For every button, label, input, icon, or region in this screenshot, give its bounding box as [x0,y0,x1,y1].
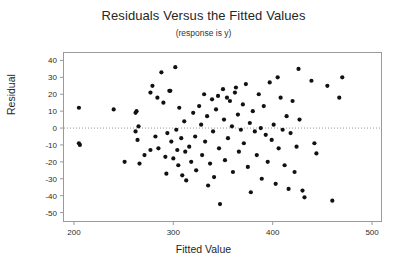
data-point [205,114,209,118]
data-point [171,156,175,160]
data-point [193,134,197,138]
data-point [244,82,248,86]
data-point [78,143,82,147]
chart-figure: Residuals Versus the Fitted Values (resp… [0,0,407,270]
data-point [251,109,255,113]
data-point [155,96,159,100]
data-point [297,118,301,122]
data-point [148,90,152,94]
data-point [264,133,268,137]
data-point [175,148,179,152]
data-point [233,90,237,94]
data-point [218,202,222,206]
data-point [296,67,300,71]
data-point [182,119,186,123]
y-tick-label: -10 [45,141,57,150]
data-point [211,129,215,133]
data-point [189,160,193,164]
data-point [281,128,285,132]
data-point [221,87,225,91]
y-tick-label: -20 [45,158,57,167]
axes-layer: 403020100-10-20-30-40-50200300400500 [45,56,379,237]
data-point [135,138,139,142]
data-point [168,89,172,93]
data-point [165,131,169,135]
data-point [340,75,344,79]
data-point [253,129,257,133]
data-point [242,141,246,145]
data-point [112,107,116,111]
data-point [277,146,281,150]
data-point [156,146,160,150]
data-point [199,123,203,127]
data-point [292,170,296,174]
data-point [302,195,306,199]
data-point [142,153,146,157]
data-point [214,107,218,111]
data-point [300,188,304,192]
data-point [163,155,167,159]
x-tick-label: 300 [167,228,181,237]
data-point [134,109,138,113]
data-point [285,114,289,118]
data-point [231,170,235,174]
data-point [200,153,204,157]
data-point [246,165,250,169]
y-tick-label: -30 [45,175,57,184]
y-tick-label: -40 [45,192,57,201]
data-point [202,92,206,96]
plot-frame [64,53,382,222]
data-point [173,65,177,69]
data-point [177,106,181,110]
data-point [176,163,180,167]
data-points-layer [77,65,345,206]
data-point [187,145,191,149]
data-point [136,124,140,128]
data-point [286,187,290,191]
data-point [330,199,334,203]
data-point [191,111,195,115]
data-point [237,150,241,154]
data-point [203,139,207,143]
data-point [161,101,165,105]
data-point [262,104,266,108]
x-tick-label: 500 [365,228,379,237]
y-tick-label: 30 [48,73,57,82]
data-point [217,146,221,150]
data-point [210,97,214,101]
data-point [272,123,276,127]
data-point [230,124,234,128]
data-point [183,150,187,154]
data-point [249,190,253,194]
data-point [248,121,252,125]
data-point [123,160,127,164]
data-point [325,84,329,88]
y-tick-label: 20 [48,90,57,99]
data-point [234,85,238,89]
data-point [226,136,230,140]
data-point [169,139,173,143]
data-point [174,128,178,132]
data-point [133,129,137,133]
scatter-plot-canvas: 403020100-10-20-30-40-50200300400500 [0,0,407,270]
data-point [212,175,216,179]
data-point [268,80,272,84]
data-point [241,102,245,106]
x-tick-label: 400 [266,228,280,237]
data-point [197,104,201,108]
y-tick-label: 10 [48,107,57,116]
data-point [314,151,318,155]
data-point [309,79,313,83]
data-point [77,106,81,110]
data-point [148,148,152,152]
data-point [266,160,270,164]
data-point [179,136,183,140]
data-point [194,168,198,172]
data-point [137,161,141,165]
data-point [294,145,298,149]
data-point [276,75,280,79]
data-point [288,131,292,135]
data-point [216,94,220,98]
data-point [274,182,278,186]
data-point [259,126,263,130]
